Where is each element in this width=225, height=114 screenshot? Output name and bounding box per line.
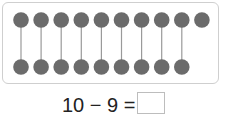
top-dot: [74, 12, 90, 28]
dot-pairing-diagram: [0, 0, 225, 90]
bottom-row-dots: [13, 59, 189, 75]
top-dot: [194, 12, 210, 28]
top-dot: [114, 12, 130, 28]
top-dot: [174, 12, 190, 28]
bottom-dot: [154, 59, 170, 75]
bottom-dot: [114, 59, 130, 75]
bottom-dot: [13, 59, 29, 75]
top-dot: [33, 12, 49, 28]
equation-text: 10 − 9 =: [62, 94, 135, 114]
bottom-dot: [53, 59, 69, 75]
bottom-dot: [33, 59, 49, 75]
bottom-dot: [74, 59, 90, 75]
answer-box[interactable]: [137, 92, 165, 114]
top-dot: [134, 12, 150, 28]
top-row-dots: [13, 12, 210, 28]
subtraction-equation: 10 − 9 =: [62, 94, 165, 114]
top-dot: [94, 12, 110, 28]
bottom-dot: [174, 59, 190, 75]
bottom-dot: [134, 59, 150, 75]
top-dot: [13, 12, 29, 28]
top-dot: [53, 12, 69, 28]
top-dot: [154, 12, 170, 28]
bottom-dot: [94, 59, 110, 75]
